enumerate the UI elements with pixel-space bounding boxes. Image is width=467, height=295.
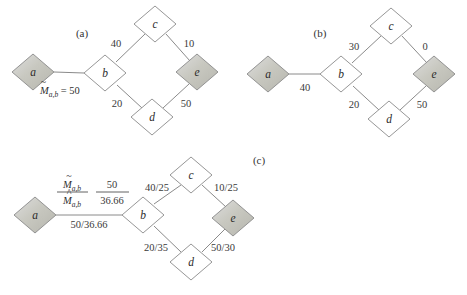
node-letter-e: e	[194, 66, 199, 78]
panel-c: b a c d e 50/36.66 40/25 10/25 20/35 50/…	[14, 154, 265, 280]
edge-weight-c-e-panel-c: 10/25	[214, 182, 238, 193]
edge-a-b	[54, 72, 84, 73]
edge-weight-c-e-panel-b: 0	[422, 41, 427, 52]
node-letter-d-panel-b: d	[386, 113, 392, 125]
node-letter-b-panel-b: b	[338, 68, 344, 80]
panel-a-nodes	[12, 6, 218, 135]
panel-b: a b c d e 40 30 0 20 50 (b)	[247, 8, 455, 137]
panel-label-a: (a)	[76, 27, 89, 40]
edge-weight-d-e-panel-b: 50	[417, 99, 428, 110]
fraction-denominator-symbol: Ma,b	[62, 195, 81, 208]
node-letter-a: a	[30, 66, 36, 78]
node-letter-a-panel-b: a	[265, 68, 271, 80]
message-label-math: Ma,b = 50	[39, 85, 80, 98]
fraction-numerator-symbol: Ma,b	[62, 179, 81, 192]
node-letter-c-panel-b: c	[388, 20, 393, 32]
panel-label-c: (c)	[253, 154, 266, 167]
hat-accent-icon-denominator: ^	[67, 187, 72, 198]
edge-weight-b-c-panel-b: 30	[349, 41, 360, 52]
node-letter-b: b	[102, 67, 108, 79]
edge-weight-a-b-panel-b: 40	[300, 82, 311, 93]
message-label-panel-a: Ma,b = 50 ~	[39, 76, 80, 99]
node-letter-b-panel-c: b	[140, 209, 146, 221]
message-subscript: a,b	[49, 89, 59, 98]
edge-weight-c-e: 10	[184, 38, 195, 49]
message-value: 50	[69, 85, 80, 96]
fraction-legend-panel-c: Ma,b ~ Ma,b ^ 50 36.66	[57, 170, 129, 208]
node-letter-c: c	[152, 18, 157, 30]
node-letter-a-panel-c: a	[32, 209, 38, 221]
node-letter-c-panel-c: c	[188, 169, 193, 181]
tilde-accent-icon: ~	[41, 76, 47, 87]
edge-weight-b-c: 40	[111, 38, 122, 49]
edge-weight-b-d: 20	[112, 98, 123, 109]
panel-a: a b c d e 40 10 20 50 Ma,b = 50 ~ (a)	[12, 6, 218, 135]
node-letter-d: d	[149, 111, 155, 123]
node-letter-e-panel-c: e	[230, 212, 235, 224]
fraction-value-numerator: 50	[107, 179, 118, 190]
tilde-accent-icon-numerator: ~	[66, 170, 72, 181]
panel-c-nodes	[14, 157, 254, 280]
panel-b-nodes	[247, 8, 455, 137]
figure-root: a b c d e 40 10 20 50 Ma,b = 50 ~ (a)	[0, 0, 467, 295]
edge-weight-a-b-panel-c: 50/36.66	[70, 219, 107, 230]
edge-weight-d-e: 50	[181, 98, 192, 109]
panel-label-b: (b)	[314, 27, 327, 40]
edge-weight-b-d-panel-c: 20/35	[144, 242, 168, 253]
figure-canvas: a b c d e 40 10 20 50 Ma,b = 50 ~ (a)	[0, 0, 467, 295]
edge-weight-b-d-panel-b: 20	[349, 99, 360, 110]
edge-weight-b-c-panel-c: 40/25	[145, 182, 169, 193]
fraction-value-denominator: 36.66	[100, 195, 124, 206]
node-letter-e-panel-b: e	[431, 68, 436, 80]
node-letter-d-panel-c: d	[188, 256, 194, 268]
edge-weight-d-e-panel-c: 50/30	[211, 242, 235, 253]
